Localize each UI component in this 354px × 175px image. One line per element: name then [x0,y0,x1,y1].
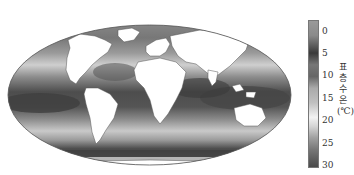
colorbar-tick: 20 [322,116,333,125]
colorbar-tick: 0 [322,27,328,36]
ocean-layer [0,20,300,175]
colorbar-tick: 5 [322,49,328,58]
label-char: 온 [337,95,349,106]
label-char: 층 [337,73,349,84]
colorbar-tick: 15 [322,94,333,103]
sea-surface-temperature-map [0,0,300,175]
label-char: 표 [337,62,349,73]
colorbar-tick: 10 [322,71,333,80]
label-char: (℃) [337,106,349,117]
label-char: 수 [337,84,349,95]
colorbar-tick: 30 [322,161,333,170]
colorbar-tick: 25 [322,139,333,148]
temperature-colorbar [308,20,319,168]
colorbar-label: 표 층 수 온 (℃) [337,62,349,117]
